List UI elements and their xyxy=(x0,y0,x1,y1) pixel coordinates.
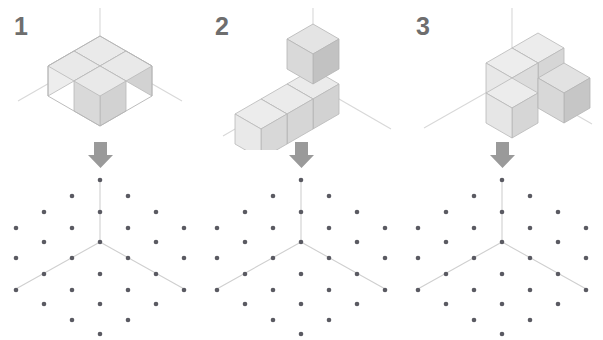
down-arrow-icon xyxy=(0,138,201,172)
shape-svg-2 xyxy=(201,0,402,150)
shape-figure-3 xyxy=(402,0,603,150)
lattice-figure-1 xyxy=(0,168,201,340)
cube-group-2 xyxy=(235,24,339,150)
shape-svg-3 xyxy=(402,0,603,150)
arrow-stage-1 xyxy=(0,138,201,172)
lattice-svg-3 xyxy=(402,168,603,340)
arrow-stage-2 xyxy=(201,138,402,172)
arrow-stage-3 xyxy=(402,138,603,172)
shape-figure-2 xyxy=(201,0,402,150)
panel-2: 2 xyxy=(201,0,402,340)
lattice-svg-1 xyxy=(0,168,201,340)
down-arrow-icon xyxy=(402,138,603,172)
lattice-figure-3 xyxy=(402,168,603,340)
down-arrow-icon xyxy=(201,138,402,172)
panel-1: 1 xyxy=(0,0,201,340)
lattice-figure-2 xyxy=(201,168,402,340)
figure-board: 1 xyxy=(0,0,603,340)
shape-figure-1 xyxy=(0,0,201,150)
shape-svg-1 xyxy=(0,0,201,150)
cube-group-3 xyxy=(486,33,590,138)
panel-3: 3 xyxy=(402,0,603,340)
lattice-svg-2 xyxy=(201,168,402,340)
cube-group-1 xyxy=(48,36,152,126)
cube-2-stacked xyxy=(287,24,339,84)
